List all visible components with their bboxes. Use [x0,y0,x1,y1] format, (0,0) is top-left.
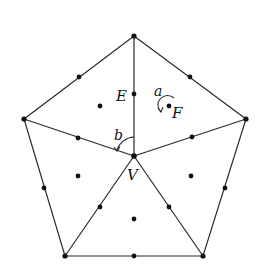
vertex-V [131,153,137,159]
label-b: b [114,127,123,143]
label-F: F [171,104,183,122]
label-E: E [115,87,127,105]
label-V: V [127,166,140,184]
face-F-dot [167,104,172,109]
label-a: a [154,83,162,99]
pentagon-diagram: E F V a b [0,0,268,279]
edge-E-dot [132,92,137,97]
outer-pentagon [24,36,246,256]
